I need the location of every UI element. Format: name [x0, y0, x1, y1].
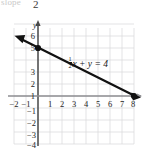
y-tick-label: 1 [31, 91, 35, 101]
equation-rest: x + y = 4 [72, 59, 108, 69]
y-tick-label: 3 [31, 67, 35, 77]
y-axis-label: y [32, 21, 37, 30]
y-tick-label: 2 [31, 79, 35, 89]
y-tick-label: −2 [27, 118, 36, 128]
y-tick-label: −4 [27, 140, 37, 150]
x-tick-label: 5 [96, 99, 100, 109]
y-tick-label: 5 [31, 43, 35, 53]
x-tick-label: 3 [72, 99, 76, 109]
line-arrow-start [15, 35, 26, 43]
graph-figure: slope 2 [0, 0, 144, 150]
x-tick-label: −2 [9, 99, 18, 109]
x-tick-label: 2 [60, 99, 64, 109]
coordinate-plane-svg: y −2 −1 1 2 3 4 5 6 7 8 6 5 3 2 1 − [0, 0, 144, 150]
point-y-intercept [35, 45, 41, 51]
x-tick-label: 1 [48, 99, 52, 109]
y-tick-label: 6 [31, 31, 35, 41]
x-tick-label: 8 [131, 99, 135, 109]
x-tick-label: 6 [108, 99, 112, 109]
y-tick-label: −3 [27, 130, 36, 140]
equation-label: 1 2 x + y = 4 [68, 56, 108, 69]
x-tick-label: 7 [120, 99, 124, 109]
coordinate-plane: y −2 −1 1 2 3 4 5 6 7 8 6 5 3 2 1 − [0, 0, 144, 150]
y-tick-label: −1 [27, 106, 36, 116]
x-tick-label: 4 [84, 99, 89, 109]
